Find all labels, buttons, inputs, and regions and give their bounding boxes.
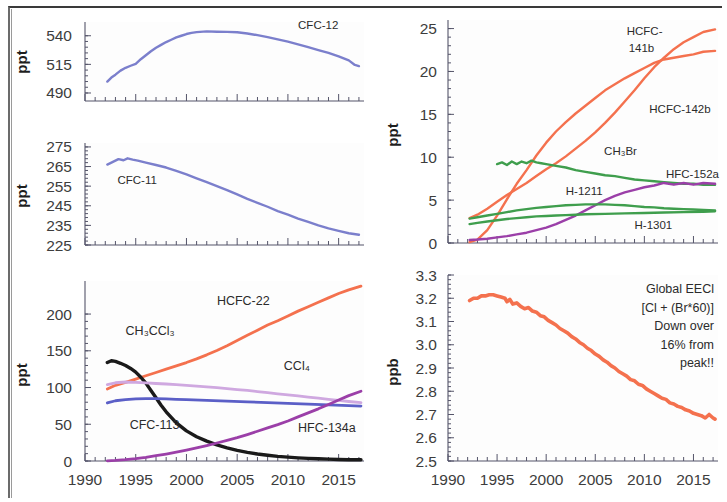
y-tick-label: 245 [46, 197, 72, 214]
panel-bottom-left: 050100150200199019952000200520102015pptH… [13, 281, 364, 488]
y-tick-label: 25 [420, 20, 437, 37]
series-label: HFC-134a [298, 421, 356, 435]
y-tick-label: 50 [55, 416, 73, 433]
x-tick-label: 1990 [431, 471, 466, 488]
y-tick-label: 3.3 [415, 267, 437, 284]
y-tick-label: 515 [46, 56, 72, 73]
y-tick-label: 2.5 [415, 453, 437, 470]
y-tick-label: 235 [46, 217, 72, 234]
y-axis-unit-label: ppt [13, 50, 30, 73]
y-tick-label: 200 [46, 306, 72, 323]
panel-cfc12: 490515540pptCFC-12 [13, 19, 364, 102]
x-tick-label: 2015 [321, 471, 355, 488]
y-tick-label: 5 [428, 192, 437, 209]
y-tick-label: 10 [420, 149, 438, 166]
x-tick-label: 1995 [118, 471, 152, 488]
y-tick-label: 255 [46, 178, 72, 195]
y-tick-label: 225 [46, 237, 72, 254]
y-tick-label: 2.7 [415, 406, 437, 423]
y-axis-unit-label: ppt [384, 123, 401, 146]
series-label: H-1301 [635, 219, 673, 231]
series-label: CFC-113 [130, 418, 180, 432]
y-tick-label: 2.9 [415, 360, 437, 377]
y-tick-label: 265 [46, 158, 72, 175]
y-axis-unit-label: ppb [384, 358, 401, 386]
x-tick-label: 1990 [68, 471, 103, 488]
series-label: HFC-152a [666, 168, 720, 180]
series-label: 141b [629, 42, 655, 54]
y-tick-label: 0 [63, 453, 72, 470]
plot-area-cfc12 [85, 22, 364, 101]
y-tick-label: 20 [420, 63, 438, 80]
panel-top-right: 0510152025pptHCFC-141bHCFC-142bCH₃BrHFC-… [384, 20, 720, 252]
y-tick-label: 3.0 [415, 336, 437, 353]
figure-root: 490515540pptCFC-12225235245255265275pptC… [0, 0, 727, 502]
y-tick-label: 0 [428, 235, 437, 252]
series-label: H-1211 [566, 185, 603, 197]
series-label: HCFC-142b [649, 103, 710, 115]
panel-cfc11: 225235245255265275pptCFC-11 [13, 138, 364, 253]
series-label: CFC-12 [298, 19, 338, 31]
eecl-annotation-line: Global EECl [646, 282, 714, 296]
eecl-annotation-line: Down over [654, 319, 714, 333]
x-tick-label: 2000 [169, 471, 204, 488]
multi-panel-chart: 490515540pptCFC-12225235245255265275pptC… [0, 0, 727, 502]
y-tick-label: 275 [46, 138, 72, 155]
eecl-annotation-line: [Cl + (Br*60)] [641, 301, 714, 315]
series-label: CH₃CCl₃ [126, 324, 175, 338]
y-tick-label: 3.1 [415, 313, 437, 330]
x-tick-label: 2010 [271, 471, 306, 488]
series-label: CH₃Br [604, 145, 637, 157]
series-label: CCl₄ [284, 359, 310, 373]
x-tick-label: 1995 [480, 471, 514, 488]
eecl-annotation-line: peak!! [680, 356, 714, 370]
y-tick-label: 15 [420, 106, 437, 123]
y-tick-label: 2.6 [415, 429, 437, 446]
y-tick-label: 490 [46, 84, 72, 101]
y-axis-unit-label: ppt [13, 184, 30, 207]
y-tick-label: 100 [46, 379, 72, 396]
series-label: HCFC- [627, 25, 663, 37]
x-tick-label: 2010 [627, 471, 662, 488]
x-tick-label: 2000 [529, 471, 564, 488]
y-tick-label: 150 [46, 342, 72, 359]
y-tick-label: 3.2 [415, 290, 437, 307]
y-tick-label: 540 [46, 27, 72, 44]
y-axis-unit-label: ppt [13, 363, 30, 386]
x-tick-label: 2005 [220, 471, 254, 488]
series-label: CFC-11 [117, 174, 156, 186]
eecl-annotation-line: 16% from [661, 338, 715, 352]
x-tick-label: 2015 [676, 471, 710, 488]
x-tick-label: 2005 [578, 471, 612, 488]
series-label: HCFC-22 [217, 294, 270, 308]
y-tick-label: 2.8 [415, 383, 437, 400]
